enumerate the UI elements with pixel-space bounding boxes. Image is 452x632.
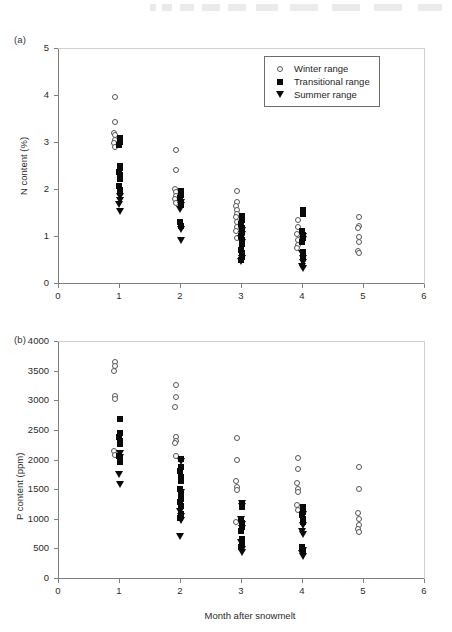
y-tick-label: 3 — [44, 136, 49, 147]
y-tick — [54, 400, 58, 401]
y-tick-label: 0 — [44, 277, 49, 288]
y-tick-label: 3500 — [28, 365, 49, 376]
data-point-transitional — [117, 416, 123, 422]
data-point-summer — [299, 265, 307, 272]
y-tick — [54, 142, 58, 143]
data-point-summer — [116, 454, 124, 461]
data-point-winter — [355, 225, 361, 231]
data-point-winter — [172, 404, 178, 410]
x-tick — [180, 284, 181, 288]
x-tick-label: 1 — [116, 585, 121, 596]
x-tick — [58, 579, 59, 583]
x-tick-label: 1 — [116, 290, 121, 301]
plot-frame-top — [58, 48, 425, 49]
panel-a: (a) N content (%) 0123450123456 Winter r… — [0, 20, 452, 320]
data-point-winter — [356, 250, 362, 256]
y-axis-line — [58, 341, 59, 579]
data-point-summer — [176, 206, 184, 213]
data-point-summer — [299, 553, 307, 560]
data-point-winter — [356, 464, 362, 470]
data-point-summer — [116, 208, 124, 215]
data-point-winter — [173, 382, 179, 388]
data-point-summer — [238, 239, 246, 246]
x-tick — [119, 579, 120, 583]
x-tick-label: 6 — [421, 585, 426, 596]
x-tick — [302, 579, 303, 583]
x-tick — [302, 284, 303, 288]
plot-frame-right — [424, 341, 425, 579]
data-point-winter — [173, 394, 179, 400]
data-point-winter — [295, 489, 301, 495]
x-tick-label: 3 — [238, 290, 243, 301]
x-tick — [119, 284, 120, 288]
x-tick — [180, 579, 181, 583]
y-tick — [54, 236, 58, 237]
data-point-summer — [115, 471, 123, 478]
data-point-winter — [112, 119, 118, 125]
data-point-winter — [234, 188, 240, 194]
legend-label-transitional: Transitional range — [294, 76, 370, 87]
x-axis-label: Month after snowmelt — [130, 610, 370, 621]
panel-b-plot-area: 050010001500200025003000350040000123456 — [0, 320, 452, 632]
data-point-winter — [356, 486, 362, 492]
x-tick — [241, 284, 242, 288]
data-point-summer — [299, 511, 307, 518]
y-tick-label: 4000 — [28, 335, 49, 346]
y-tick-label: 4 — [44, 89, 49, 100]
data-point-winter — [173, 167, 179, 173]
page-header-rule — [150, 4, 450, 11]
x-tick-label: 4 — [299, 290, 304, 301]
data-point-transitional — [116, 142, 122, 148]
panel-a-plot-area: 0123450123456 — [0, 20, 452, 320]
data-point-transitional — [117, 176, 123, 182]
data-point-winter — [234, 435, 240, 441]
chart-legend: Winter range Transitional range Summer r… — [264, 56, 380, 107]
x-tick — [424, 284, 425, 288]
plot-frame-right — [424, 48, 425, 284]
y-tick — [54, 48, 58, 49]
data-point-summer — [238, 525, 246, 532]
y-tick — [54, 95, 58, 96]
y-tick — [54, 371, 58, 372]
panel-b: (b) P content (ppm) 05001000150020002500… — [0, 320, 452, 632]
y-tick — [54, 489, 58, 490]
y-tick-label: 1000 — [28, 513, 49, 524]
y-tick — [54, 460, 58, 461]
data-point-summer — [237, 539, 245, 546]
data-point-summer — [237, 258, 245, 265]
x-tick-label: 5 — [360, 585, 365, 596]
legend-label-summer: Summer range — [294, 89, 357, 100]
data-point-winter — [356, 529, 362, 535]
data-point-winter — [112, 396, 118, 402]
x-tick-label: 6 — [421, 290, 426, 301]
data-point-summer — [116, 481, 124, 488]
y-tick-label: 1 — [44, 230, 49, 241]
data-point-transitional — [178, 478, 184, 484]
x-tick — [363, 579, 364, 583]
y-tick — [54, 519, 58, 520]
data-point-winter — [111, 368, 117, 374]
x-tick-label: 0 — [55, 290, 60, 301]
data-point-summer — [299, 236, 307, 243]
x-tick — [363, 284, 364, 288]
x-tick-label: 2 — [177, 290, 182, 301]
y-tick-label: 2500 — [28, 424, 49, 435]
data-point-summer — [177, 517, 185, 524]
y-tick-label: 0 — [44, 572, 49, 583]
data-point-winter — [173, 147, 179, 153]
y-tick — [54, 548, 58, 549]
data-point-summer — [238, 503, 246, 510]
data-point-winter — [233, 478, 239, 484]
y-tick-label: 2000 — [28, 454, 49, 465]
data-point-summer — [115, 201, 123, 208]
data-point-summer — [176, 533, 184, 540]
legend-label-winter: Winter range — [294, 63, 348, 74]
data-point-winter — [112, 94, 118, 100]
legend-item-transitional: Transitional range — [272, 75, 370, 88]
data-point-summer — [177, 458, 185, 465]
y-tick — [54, 430, 58, 431]
data-point-winter — [172, 440, 178, 446]
data-point-winter — [234, 457, 240, 463]
y-axis-line — [58, 48, 59, 284]
data-point-summer — [177, 489, 185, 496]
